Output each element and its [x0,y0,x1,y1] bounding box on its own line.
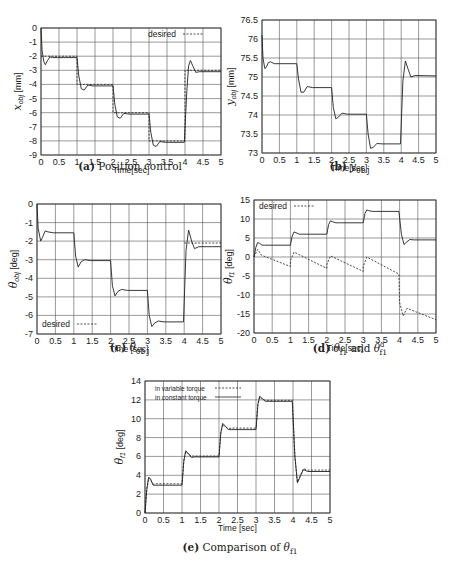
caption-b: (b) yobj [300,160,400,175]
y-tick-label: -6 [29,108,37,118]
y-axis-label: xobj [mm] [11,72,25,110]
y-axis-label: θf1 [deg] [113,430,126,465]
caption-d: (d) θf1 and θdf1 [280,341,420,357]
y-tick-label: 10 [131,414,141,424]
y-tick-label: -9 [29,150,37,160]
legend: in variable torquein constant torque [155,385,241,402]
y-tick-label: -2 [25,236,33,246]
legend: desired [42,319,97,329]
x-tick-label: 5 [218,157,223,167]
caption-label: (d) [313,342,330,354]
x-tick-label: 4.5 [412,155,425,165]
y-tick-label: 0 [28,199,33,209]
chart-a: 00.511.522.533.544.550-1-2-3-4-5-6-7-8-9… [11,23,224,175]
x-tick-label: 5 [218,336,223,346]
x-tick-label: 1 [179,515,184,525]
y-tick-label: -4 [25,273,33,283]
y-tick-label: -15 [237,309,250,319]
caption-subscript-2: f1 [380,348,388,357]
caption-label: (b) [329,160,346,172]
y-tick-label: -7 [25,329,33,339]
x-tick-label: 5 [327,515,332,525]
y-tick-label: 76.5 [240,15,258,25]
x-tick-label: 0 [251,335,256,345]
y-tick-label: -3 [29,65,37,75]
x-tick-label: 0.5 [49,336,62,346]
legend-label: in constant torque [155,394,207,402]
y-tick-label: -10 [237,290,250,300]
legend-label: desired [148,29,176,39]
y-tick-label: 0 [32,23,37,33]
grid [262,20,436,153]
y-axis-label: yobj [mm] [224,67,238,106]
y-tick-label: 4 [136,470,141,480]
grid [254,200,436,333]
y-tick-label: 75 [248,72,258,82]
y-tick-label: -5 [242,271,250,281]
figure-canvas: 00.511.522.533.544.550-1-2-3-4-5-6-7-8-9… [0,0,453,566]
caption-a: (a) Position control [60,160,200,172]
x-tick-label: 4.5 [196,336,209,346]
caption-text: Position control [98,160,182,172]
y-tick-label: 8 [136,433,141,443]
y-tick-label: 74.5 [240,91,258,101]
x-tick-label: 0 [142,515,147,525]
legend: desired [259,201,314,211]
grid [37,204,221,334]
x-tick-label: 1.5 [194,515,207,525]
y-tick-label: -2 [29,51,37,61]
y-tick-label: 73.5 [240,129,258,139]
y-tick-label: 0 [136,508,141,518]
y-tick-label: 14 [131,376,141,386]
x-tick-label: 0 [38,157,43,167]
y-tick-label: -4 [29,79,37,89]
x-tick-label: 0.5 [273,155,286,165]
caption-label: (c) [110,341,126,353]
y-tick-label: -5 [29,94,37,104]
chart-d: 00.511.522.533.544.55151050-5-10-15-20Ti… [222,195,439,353]
y-tick-label: 6 [136,451,141,461]
y-axis-label: θf1 [deg] [222,249,235,284]
x-tick-label: 0 [34,336,39,346]
y-tick-label: -5 [25,292,33,302]
caption-e: (e) Comparison of θf1 [160,541,320,556]
caption-text: Comparison of [203,541,284,553]
y-tick-label: 12 [131,395,141,405]
x-tick-label: 5 [433,155,438,165]
y-tick-label: 74 [248,110,258,120]
caption-label: (a) [78,160,95,172]
caption-subscript: f1 [290,547,298,556]
y-tick-label: -7 [29,122,37,132]
caption-label: (e) [183,541,200,553]
y-tick-label: 0 [245,252,250,262]
y-tick-label: 73 [248,148,258,158]
x-tick-label: 5 [433,335,438,345]
x-tick-label: 4.5 [305,515,318,525]
y-axis-label: θobj [deg] [7,250,21,289]
legend-label: desired [42,319,70,329]
y-tick-label: 15 [240,195,250,205]
y-tick-label: -8 [29,136,37,146]
x-axis-label: Time [sec] [218,523,257,533]
grid [41,28,221,155]
x-tick-label: 4 [290,515,295,525]
y-tick-label: 10 [240,214,250,224]
x-tick-label: 4 [182,336,187,346]
y-tick-label: 76 [248,34,258,44]
x-tick-label: 1 [294,155,299,165]
y-tick-label: 75.5 [240,53,258,63]
y-tick-label: -20 [237,328,250,338]
x-tick-label: 0.5 [157,515,170,525]
y-tick-label: 5 [245,233,250,243]
y-tick-label: -1 [25,218,33,228]
legend-label: desired [259,201,287,211]
legend-label: in variable torque [155,385,205,393]
y-tick-label: -3 [25,255,33,265]
chart-e: 00.511.522.533.544.5514121086420Time [se… [113,376,333,533]
caption-subscript: obj [136,347,150,356]
caption-subscript: obj [356,166,370,175]
y-tick-label: -1 [29,37,37,47]
x-tick-label: 0.5 [266,335,279,345]
x-tick-label: 0 [259,155,264,165]
y-tick-label: -6 [25,310,33,320]
